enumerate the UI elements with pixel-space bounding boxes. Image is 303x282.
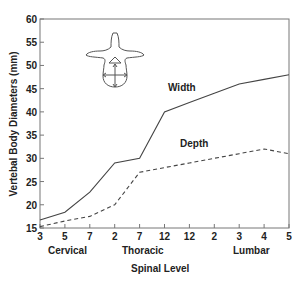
y-tick-label: 35 (26, 130, 38, 141)
group-label-lumbar: Lumbar (233, 245, 270, 256)
y-tick-label: 25 (26, 177, 38, 188)
y-tick-label: 40 (26, 107, 38, 118)
x-tick-label: 2 (212, 231, 218, 242)
depth-series-label: Depth (180, 138, 208, 149)
plot-frame (40, 19, 289, 228)
y-tick-label: 60 (26, 14, 38, 25)
series-lines (40, 75, 289, 227)
y-tick-label: 30 (26, 153, 38, 164)
x-axis-title: Spinal Level (131, 263, 190, 274)
x-tick-label: 3 (236, 231, 242, 242)
y-tick-label: 15 (26, 223, 38, 234)
x-tick-label: 5 (62, 231, 68, 242)
group-label-cervical: Cervical (48, 245, 87, 256)
x-tick-label: 2 (112, 231, 118, 242)
series-line-width (40, 75, 289, 220)
line-chart: 15202530354045505560 3572712122345 Width… (0, 0, 303, 282)
x-tick-label: 7 (87, 231, 93, 242)
y-axis-title: Vertebal Body Diameters (mm) (8, 51, 19, 196)
series-line-depth (40, 149, 289, 227)
x-tick-label: 12 (159, 231, 171, 242)
y-tick-label: 55 (26, 37, 38, 48)
x-axis-ticks: 3572712122345 (37, 224, 292, 242)
width-series-label: Width (168, 82, 196, 93)
vertebra-icon (86, 33, 144, 87)
x-tick-label: 7 (137, 231, 143, 242)
group-label-thoracic: Thoracic (122, 245, 164, 256)
x-tick-label: 4 (261, 231, 267, 242)
x-tick-label: 3 (37, 231, 43, 242)
plot-area-border (40, 19, 289, 228)
x-tick-label: 12 (184, 231, 196, 242)
y-tick-label: 20 (26, 200, 38, 211)
y-tick-label: 45 (26, 84, 38, 95)
y-axis-ticks: 15202530354045505560 (26, 14, 44, 234)
x-tick-label: 5 (286, 231, 292, 242)
y-tick-label: 50 (26, 60, 38, 71)
